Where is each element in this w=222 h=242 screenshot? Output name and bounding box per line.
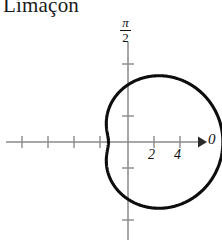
polar-plot [0,0,222,242]
figure-limacon: Limaçon 0 2 4 π 2 [0,0,222,242]
denominator-two: 2 [120,31,131,45]
pi-symbol: π [120,16,131,30]
x-axis-arrow-icon [198,137,207,148]
y-axis [122,42,134,240]
x-tick-label-2: 2 [148,147,155,163]
y-axis-label: π 2 [120,16,131,44]
x-axis-label: 0 [208,131,216,148]
x-tick-label-4: 4 [174,147,181,163]
